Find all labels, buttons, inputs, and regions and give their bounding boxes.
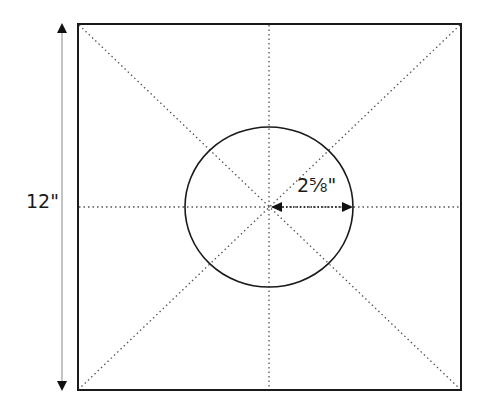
arrow-up-icon	[57, 23, 67, 33]
guide-lines	[79, 25, 460, 389]
arrow-left-icon	[271, 202, 282, 212]
pattern-diagram-svg	[0, 0, 480, 412]
height-dimension-label: 12"	[26, 190, 59, 212]
radius-dimension-label: 2⅝"	[297, 174, 336, 196]
arrow-down-icon	[57, 381, 67, 391]
arrow-right-icon	[342, 202, 353, 212]
